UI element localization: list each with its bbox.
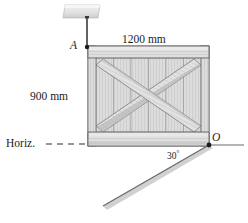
width-dimension-label: 1200 mm (122, 34, 166, 46)
point-o-marker (207, 143, 212, 148)
point-a-marker (85, 45, 89, 49)
point-o-label: O (212, 132, 220, 144)
crate-post-left (88, 46, 96, 146)
ceiling-support-block (63, 5, 100, 18)
height-dimension-label: 900 mm (30, 91, 68, 103)
point-a-label: A (70, 40, 77, 52)
suspension-cable (85, 16, 89, 48)
horizontal-reference-label: Horiz. (6, 138, 35, 150)
crate (88, 46, 209, 146)
crate-post-right (201, 46, 209, 146)
angle-label: 30° (167, 150, 179, 162)
degree-symbol: ° (177, 149, 180, 157)
angle-value: 30 (167, 151, 177, 161)
figure-canvas: A O 1200 mm 900 mm Horiz. 30° (0, 0, 248, 223)
